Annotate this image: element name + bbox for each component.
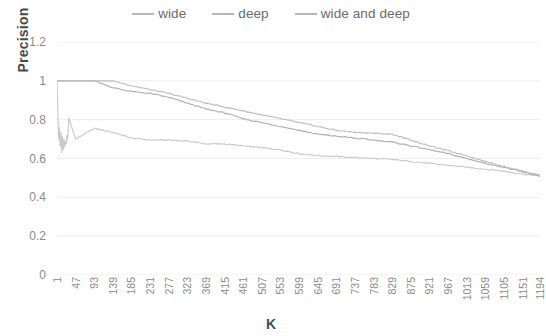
x-axis-tick-labels: 1479313918523127732336941546150755359964… [57,277,540,317]
y-tick-label: 1.2 [8,35,46,49]
x-tick-label: 415 [220,277,231,295]
series-line-deep [57,81,540,176]
x-axis-title: K [0,316,542,332]
legend-line-icon-deep [212,13,234,15]
x-tick-label: 1105 [499,277,510,300]
x-tick-label: 507 [257,277,268,295]
x-tick-label: 1059 [480,277,491,300]
y-tick-label: 1 [8,74,46,88]
legend-item-wide: wide [132,6,186,21]
x-tick-label: 231 [145,277,156,295]
x-tick-label: 1013 [462,277,473,300]
x-tick-label: 461 [238,277,249,295]
x-tick-label: 737 [350,277,361,295]
x-tick-label: 553 [275,277,286,295]
x-tick-label: 323 [182,277,193,295]
series-line-wide [57,81,540,176]
plot-area [57,42,540,275]
x-tick-label: 921 [424,277,435,295]
y-tick-label: 0.4 [8,190,46,204]
x-tick-label: 599 [294,277,305,295]
chart-legend: wide deep wide and deep [0,6,542,21]
y-tick-label: 0.2 [8,229,46,243]
legend-item-deep: deep [212,6,268,21]
x-tick-label: 783 [369,277,380,295]
x-tick-label: 875 [406,277,417,295]
legend-label-deep: deep [238,6,268,21]
x-tick-label: 1194 [535,277,546,300]
x-tick-label: 1 [52,277,63,283]
y-tick-label: 0 [8,268,46,282]
legend-label-wide: wide [158,6,186,21]
legend-label-wide-and-deep: wide and deep [321,6,410,21]
legend-line-icon-wide [132,13,154,15]
x-tick-label: 967 [443,277,454,295]
y-tick-label: 0.8 [8,113,46,127]
x-tick-label: 829 [387,277,398,295]
x-tick-label: 185 [126,277,137,295]
x-tick-label: 277 [164,277,175,295]
x-tick-label: 369 [201,277,212,295]
x-tick-label: 93 [89,277,100,289]
legend-item-wide-and-deep: wide and deep [295,6,410,21]
y-axis-tick-labels: 00.20.40.60.811.2 [6,0,46,336]
series-line-wide-and-deep [57,81,540,175]
y-tick-label: 0.6 [8,152,46,166]
x-tick-label: 1151 [518,277,529,300]
x-tick-label: 47 [71,277,82,289]
x-tick-label: 691 [331,277,342,295]
x-tick-label: 139 [108,277,119,295]
x-tick-label: 645 [313,277,324,295]
legend-line-icon-wide-and-deep [295,13,317,15]
plot-svg [57,42,540,275]
